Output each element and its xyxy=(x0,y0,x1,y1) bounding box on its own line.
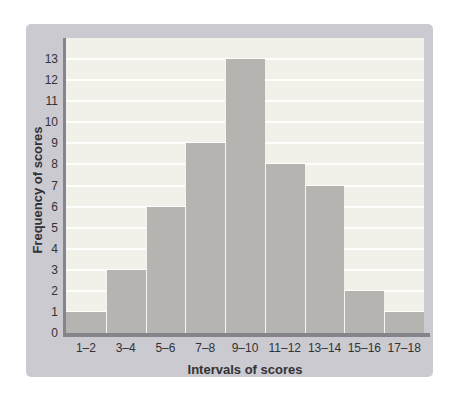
y-tick-label: 12 xyxy=(28,72,58,88)
x-tick-label: 11–12 xyxy=(265,341,305,356)
bar-11–12 xyxy=(265,164,305,333)
bar-15–16 xyxy=(344,291,384,333)
x-tick-label: 17–18 xyxy=(384,341,424,356)
x-tick-label: 7–8 xyxy=(185,341,225,356)
y-tick-label: 8 xyxy=(28,156,58,172)
y-tick-label: 13 xyxy=(28,51,58,67)
bar-9–10 xyxy=(225,59,265,333)
y-tick-label: 2 xyxy=(28,283,58,299)
y-tick-label: 6 xyxy=(28,199,58,215)
x-tick-label: 5–6 xyxy=(146,341,186,356)
chart-panel: Frequency of scores 012345678910111213 1… xyxy=(26,24,433,377)
x-axis-tick-labels: 1–23–45–67–89–1011–1213–1415–1617–18 xyxy=(66,341,424,356)
bar-3–4 xyxy=(106,270,146,333)
y-tick-label: 0 xyxy=(28,325,58,341)
bar-17–18 xyxy=(384,312,424,333)
y-tick-label: 9 xyxy=(28,135,58,151)
x-tick-label: 1–2 xyxy=(66,341,106,356)
x-axis-title: Intervals of scores xyxy=(188,362,303,377)
y-tick-label: 5 xyxy=(28,220,58,236)
y-tick-label: 11 xyxy=(28,93,58,109)
x-axis-title-row: Intervals of scores xyxy=(66,360,424,378)
x-tick-label: 15–16 xyxy=(344,341,384,356)
bar-1–2 xyxy=(66,312,106,333)
y-tick-label: 4 xyxy=(28,241,58,257)
y-tick-label: 10 xyxy=(28,114,58,130)
x-tick-label: 9–10 xyxy=(225,341,265,356)
bar-7–8 xyxy=(185,143,225,333)
y-tick-label: 7 xyxy=(28,178,58,194)
bar-5–6 xyxy=(146,207,186,333)
plot-area xyxy=(63,38,424,333)
y-tick-label: 1 xyxy=(28,304,58,320)
x-axis-line xyxy=(63,333,430,337)
x-tick-label: 13–14 xyxy=(305,341,345,356)
y-tick-label: 3 xyxy=(28,262,58,278)
x-tick-label: 3–4 xyxy=(106,341,146,356)
y-axis-tick-labels: 012345678910111213 xyxy=(26,24,60,377)
bar-13–14 xyxy=(305,186,345,334)
histogram-figure: Frequency of scores 012345678910111213 1… xyxy=(0,0,466,395)
